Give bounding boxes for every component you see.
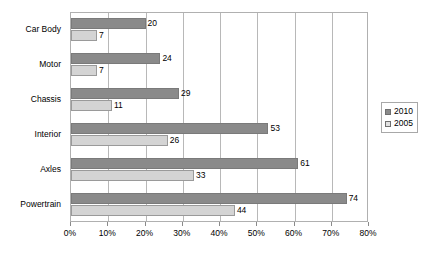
bar-group: 207 — [71, 13, 367, 48]
plot-area: 2072472911532661337444 — [70, 12, 368, 222]
bar-group: 6133 — [71, 153, 367, 188]
bar-2010 — [71, 18, 146, 29]
bar-2005 — [71, 65, 97, 76]
x-axis-tick — [107, 222, 108, 226]
bar-2010 — [71, 53, 160, 64]
bar-group: 7444 — [71, 188, 367, 223]
x-axis-tick — [219, 222, 220, 226]
x-axis-tick-label: 10% — [99, 228, 116, 238]
y-axis-category-labels: Car BodyMotorChassisInteriorAxlesPowertr… — [0, 12, 66, 222]
bar-value-label: 44 — [237, 205, 246, 216]
bar-value-label: 29 — [181, 88, 190, 99]
bar-value-label: 61 — [300, 158, 309, 169]
bar-value-label: 24 — [162, 53, 171, 64]
x-axis-tick-label: 60% — [285, 228, 302, 238]
bar-group: 247 — [71, 48, 367, 83]
x-axis-tick — [331, 222, 332, 226]
x-axis-tick-label: 70% — [322, 228, 339, 238]
legend-item-2010: 2010 — [385, 106, 413, 117]
x-axis-tick-label: 30% — [173, 228, 190, 238]
legend-label-2010: 2010 — [394, 106, 413, 117]
bar-2010 — [71, 123, 268, 134]
bar-value-label: 7 — [99, 65, 104, 76]
bar-group: 5326 — [71, 118, 367, 153]
bar-group: 2911 — [71, 83, 367, 118]
x-axis-tick — [70, 222, 71, 226]
legend-item-2005: 2005 — [385, 118, 413, 129]
x-axis-tick-label: 50% — [248, 228, 265, 238]
bar-2010 — [71, 158, 298, 169]
x-axis-tick — [182, 222, 183, 226]
x-axis-tick-label: 20% — [136, 228, 153, 238]
category-label: Interior — [35, 117, 61, 152]
x-axis-tick — [145, 222, 146, 226]
x-axis-tick-label: 40% — [210, 228, 227, 238]
bar-chart: Car BodyMotorChassisInteriorAxlesPowertr… — [0, 0, 436, 254]
bar-value-label: 7 — [99, 30, 104, 41]
bar-2005 — [71, 135, 168, 146]
bar-2005 — [71, 170, 194, 181]
category-label: Powertrain — [20, 187, 61, 222]
x-axis-tick — [368, 222, 369, 226]
x-axis-tick-label: 0% — [64, 228, 76, 238]
legend-label-2005: 2005 — [394, 118, 413, 129]
bar-value-label: 74 — [349, 193, 358, 204]
category-label: Chassis — [31, 82, 61, 117]
bar-2005 — [71, 30, 97, 41]
x-axis: 0%10%20%30%40%50%60%70%80% — [70, 222, 368, 252]
chart-legend: 2010 2005 — [381, 102, 418, 133]
x-axis-tick-label: 80% — [359, 228, 376, 238]
bar-value-label: 33 — [196, 170, 205, 181]
x-axis-tick — [294, 222, 295, 226]
category-label: Motor — [39, 47, 61, 82]
bar-value-label: 26 — [170, 135, 179, 146]
bar-2010 — [71, 88, 179, 99]
bar-value-label: 11 — [114, 100, 123, 111]
bar-2005 — [71, 205, 235, 216]
bar-value-label: 20 — [148, 18, 157, 29]
bar-2010 — [71, 193, 347, 204]
legend-swatch-2005 — [385, 121, 391, 127]
category-label: Axles — [40, 152, 61, 187]
bar-2005 — [71, 100, 112, 111]
x-axis-tick — [256, 222, 257, 226]
bar-value-label: 53 — [270, 123, 279, 134]
category-label: Car Body — [26, 12, 61, 47]
legend-swatch-2010 — [385, 109, 391, 115]
